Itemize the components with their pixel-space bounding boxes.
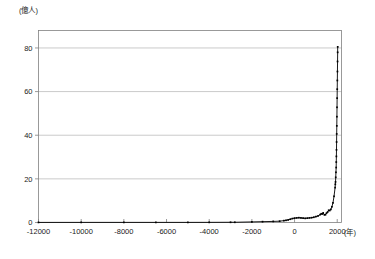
y-tick-label-60: 60 (24, 87, 32, 96)
plot-frame (39, 31, 342, 223)
data-point-1965 (336, 149, 338, 151)
data-point-1960 (336, 156, 338, 158)
data-point--500 (283, 220, 285, 222)
plot-border (39, 31, 342, 223)
x-tick-label--12000: -12000 (27, 227, 50, 236)
x-tick-label--2000: -2000 (242, 227, 261, 236)
data-point-0 (294, 217, 296, 219)
x-tick-label--8000: -8000 (114, 227, 133, 236)
y-tick-label-0: 0 (28, 218, 32, 227)
data-point-200 (298, 217, 300, 219)
x-tick-label-0: 0 (292, 227, 296, 236)
data-point-1940 (335, 171, 337, 173)
data-point-800 (311, 217, 313, 219)
data-point-1550 (327, 211, 329, 213)
data-point--1000 (272, 221, 274, 223)
data-point-1995 (336, 97, 338, 99)
data-point-1100 (317, 215, 319, 217)
y-tick-label-80: 80 (24, 44, 32, 53)
data-point-2020 (337, 51, 339, 53)
data-point--6500 (155, 222, 157, 224)
data-point--700 (279, 220, 281, 222)
data-point-2000 (336, 88, 338, 90)
data-point-1985 (336, 116, 338, 118)
data-point-1000 (315, 216, 317, 218)
data-point-1850 (333, 195, 335, 197)
y-axis-tick-labels: 020406080 (24, 44, 32, 228)
data-point--1500 (262, 221, 264, 223)
data-point-1980 (336, 125, 338, 127)
y-axis-ticks (35, 48, 39, 223)
y-tick-label-20: 20 (24, 175, 32, 184)
data-point-1450 (325, 214, 327, 216)
data-point--4000 (208, 222, 210, 224)
gridlines (39, 48, 342, 179)
data-point-2022 (337, 46, 339, 48)
data-series-world-population (38, 46, 339, 223)
data-point-1920 (335, 181, 337, 183)
data-point-1990 (336, 106, 338, 108)
data-point-1955 (335, 161, 337, 163)
y-tick-label-40: 40 (24, 131, 32, 140)
data-point--2000 (251, 221, 253, 223)
data-point--5000 (187, 222, 189, 224)
data-point-1900 (334, 187, 336, 189)
data-point-700 (309, 217, 311, 219)
data-point-600 (307, 217, 309, 219)
data-point-1970 (336, 141, 338, 143)
chart-canvas: -12000-10000-8000-6000-4000-200002000 02… (0, 0, 375, 259)
data-point--300 (287, 219, 289, 221)
data-point-1930 (335, 176, 337, 178)
data-point-2010 (337, 71, 339, 73)
x-tick-label--4000: -4000 (200, 227, 219, 236)
data-point-500 (304, 218, 306, 220)
data-point-400 (302, 217, 304, 219)
data-point-1700 (330, 209, 332, 211)
x-tick-label--10000: -10000 (69, 227, 92, 236)
data-point-1950 (335, 167, 337, 169)
data-point-1800 (332, 202, 334, 204)
x-tick-label--6000: -6000 (157, 227, 176, 236)
data-point-100 (296, 217, 298, 219)
data-point-300 (300, 217, 302, 219)
data-point-2015 (337, 61, 339, 63)
x-axis-tick-labels: -12000-10000-8000-6000-4000-200002000 (27, 227, 346, 236)
data-point--400 (285, 219, 287, 221)
x-axis-unit-label: (年) (344, 228, 356, 238)
data-point--10000 (80, 222, 82, 224)
series-line (39, 47, 338, 223)
data-point-2005 (336, 80, 338, 82)
data-point--3000 (230, 221, 232, 223)
population-chart: (億人) -12000-10000-8000-6000-4000-2000020… (0, 0, 375, 259)
data-point-1750 (331, 206, 333, 208)
data-point-1975 (336, 133, 338, 135)
data-point-900 (313, 216, 315, 218)
data-point--8000 (123, 222, 125, 224)
data-point-1910 (334, 183, 336, 185)
data-point--200 (289, 218, 291, 220)
data-point--100 (292, 218, 294, 220)
data-point-1340 (322, 212, 324, 214)
data-point--12000 (38, 222, 40, 224)
data-point--2800 (234, 221, 236, 223)
